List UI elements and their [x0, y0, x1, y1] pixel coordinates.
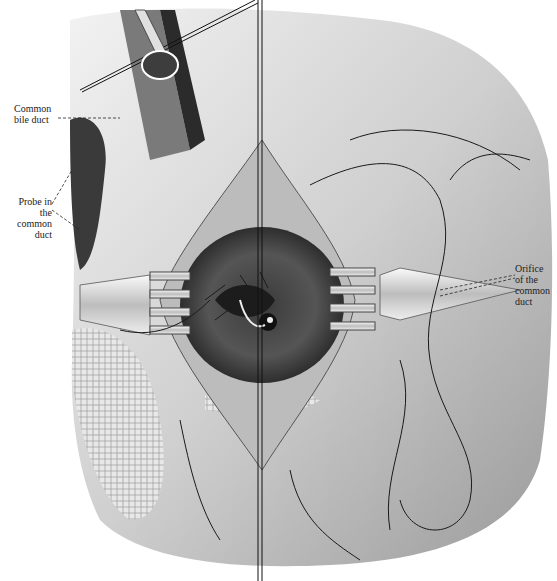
- label-line: duct: [515, 296, 550, 307]
- label-orifice-of-common-duct: Orifice of the common duct: [515, 263, 550, 307]
- label-common-bile-duct: Common bile duct: [14, 103, 51, 125]
- surgical-illustration: [0, 0, 557, 581]
- label-line: common: [515, 285, 550, 296]
- label-line: duct: [4, 229, 52, 240]
- label-line: Common: [14, 103, 51, 114]
- label-line: the common: [4, 207, 52, 229]
- label-line: bile duct: [14, 114, 51, 125]
- label-line: of the: [515, 274, 550, 285]
- label-probe-in-common-duct: Probe in the common duct: [4, 196, 52, 240]
- label-line: Orifice: [515, 263, 550, 274]
- label-line: Probe in: [4, 196, 52, 207]
